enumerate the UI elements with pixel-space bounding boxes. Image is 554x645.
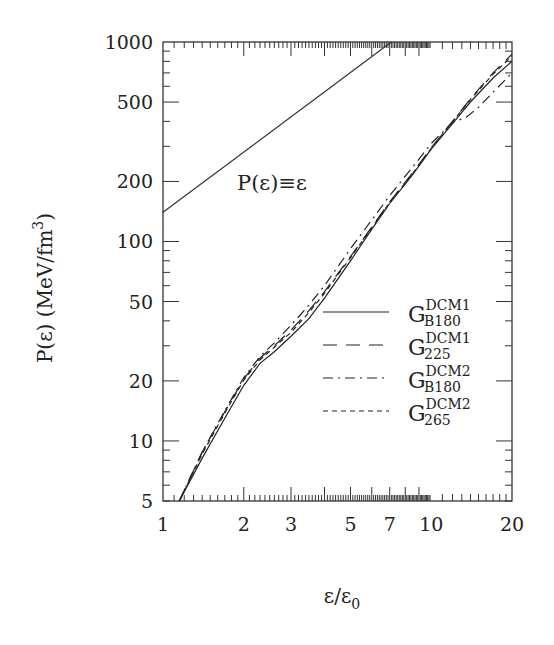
y-tick-label: 20	[129, 370, 153, 392]
legend-label-sub: B180	[424, 379, 461, 395]
series-line-1	[179, 61, 512, 501]
y-axis-title-main: P(ε) (MeV/fm	[33, 230, 57, 363]
legend-label-3: GDCM2B180	[408, 363, 471, 395]
x-axis-title-sub: 0	[351, 596, 360, 612]
y-tick-label: 10	[129, 430, 153, 452]
x-tick-label: 1	[157, 513, 169, 535]
series-line-3	[179, 73, 512, 501]
x-tick-label: 20	[500, 513, 524, 535]
legend-label-4: GDCM2265	[408, 396, 471, 428]
identity-line-label: P(ε)≡ε	[237, 171, 307, 195]
axes	[163, 42, 512, 501]
legend-label-1: GDCM1B180	[408, 297, 471, 329]
x-tick-label: 2	[238, 513, 250, 535]
legend-label-main: G	[408, 368, 426, 393]
tick-marks	[163, 42, 512, 501]
y-tick-label: 200	[117, 170, 153, 192]
legend-label-2: GDCM1225	[408, 330, 471, 362]
legend-label-sup: DCM1	[426, 297, 471, 313]
legend-label-sub: 225	[424, 346, 451, 362]
y-tick-label: 5	[141, 490, 153, 512]
x-axis-title: ε/ε0	[324, 584, 360, 612]
legend-label-sup: DCM2	[426, 396, 471, 412]
x-axis-title-main: ε/ε	[324, 584, 351, 608]
plot-frame	[163, 42, 512, 501]
legend: GDCM1B180GDCM1225GDCM2B180GDCM2265	[323, 297, 471, 428]
tick-labels: 12357102051020501002005001000	[105, 31, 524, 535]
legend-label-main: G	[408, 335, 426, 360]
series-group	[179, 54, 512, 501]
legend-label-sub: B180	[424, 313, 461, 329]
series-line-4	[179, 56, 512, 501]
x-tick-label: 3	[285, 513, 297, 535]
annotation: P(ε)≡ε	[163, 42, 391, 212]
x-tick-label: 5	[344, 513, 356, 535]
legend-label-sup: DCM1	[426, 330, 471, 346]
y-tick-label: 1000	[105, 31, 153, 53]
x-tick-label: 7	[384, 513, 396, 535]
x-tick-label: 10	[419, 513, 443, 535]
y-tick-label: 500	[117, 91, 153, 113]
legend-label-sup: DCM2	[426, 363, 471, 379]
y-axis-title: P(ε) (MeV/fm3)	[30, 213, 57, 363]
y-axis-title-close: )	[33, 213, 57, 221]
chart: 12357102051020501002005001000 P(ε)≡ε GDC…	[0, 0, 554, 645]
series-line-2	[179, 54, 512, 501]
y-tick-label: 100	[117, 230, 153, 252]
legend-label-main: G	[408, 401, 426, 426]
legend-label-sub: 265	[424, 412, 451, 428]
y-tick-label: 50	[129, 291, 153, 313]
legend-label-main: G	[408, 302, 426, 327]
y-axis-title-sup: 3	[30, 221, 46, 230]
series-lines	[179, 54, 512, 501]
